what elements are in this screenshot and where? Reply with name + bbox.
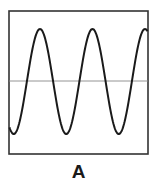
figure-label: A	[0, 161, 157, 183]
waveform-diagram	[0, 0, 157, 187]
sine-wave	[10, 29, 148, 134]
